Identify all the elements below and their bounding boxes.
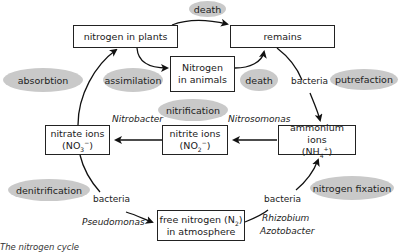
node-nitrite-ions: nitrite ions (NO2−) xyxy=(162,125,228,155)
node-formula: (NO2−) xyxy=(180,140,211,152)
node-free-nitrogen: free nitrogen (N2) in atmosphere xyxy=(157,210,245,241)
arrow-plants-to-animals xyxy=(137,48,167,68)
node-label: nitrogen in plants xyxy=(84,31,168,43)
node-label: nitrite ions xyxy=(170,128,221,140)
arrow-animals-to-remains xyxy=(235,52,264,68)
process-assimilation: assimilation xyxy=(103,68,163,92)
node-label-2: in atmosphere xyxy=(167,226,236,238)
label-rhizobium: Rhizobium xyxy=(262,213,309,223)
node-formula: free nitrogen (N2) xyxy=(160,214,243,226)
node-remains: remains xyxy=(230,25,335,48)
process-nitrogen-fixation: nitrogen fixation xyxy=(310,176,394,200)
process-death-top: death xyxy=(189,1,226,17)
node-formula: (NH4+) xyxy=(302,146,333,158)
process-nitrification: nitrification xyxy=(158,99,228,121)
node-nitrate-ions: nitrate ions (NO3−) xyxy=(45,125,110,155)
node-label: ammonium ions xyxy=(279,122,355,146)
node-nitrogen-in-plants: nitrogen in plants xyxy=(73,25,178,48)
label-bacteria-fixation: bacteria xyxy=(264,194,301,204)
process-putrefaction: putrefaction xyxy=(330,69,398,90)
arrow-plants-to-remains xyxy=(172,20,227,25)
label-nitrobacter: Nitrobacter xyxy=(112,114,163,124)
process-denitrification: denitrification xyxy=(8,179,90,201)
process-death-mid: death xyxy=(240,69,278,91)
node-nitrogen-in-animals: Nitrogen in animals xyxy=(170,56,235,92)
label-bacteria-denitrification: bacteria xyxy=(93,194,130,204)
label-azotobacter: Azotobacter xyxy=(260,226,314,236)
label-nitrosomonas: Nitrosomonas xyxy=(228,114,290,124)
label-pseudomonas: Pseudomonas xyxy=(82,217,145,227)
node-label: Nitrogen xyxy=(182,62,223,74)
label-bacteria-putrefaction: bacteria xyxy=(291,76,328,86)
node-formula: (NO3−) xyxy=(62,140,93,152)
node-label: nitrate ions xyxy=(50,128,104,140)
node-ammonium-ions: ammonium ions (NH4+) xyxy=(278,125,356,155)
node-label-2: in animals xyxy=(178,74,227,86)
node-label: remains xyxy=(263,31,301,43)
diagram-caption: The nitrogen cycle xyxy=(0,242,79,252)
process-absorbtion: absorbtion xyxy=(3,68,83,92)
